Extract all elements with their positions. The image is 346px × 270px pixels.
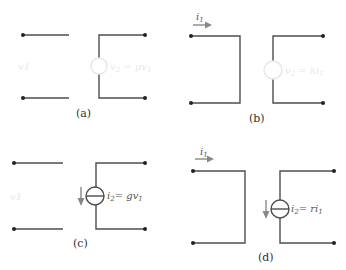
terminal-dot	[332, 241, 336, 245]
arrowhead-icon	[263, 211, 270, 219]
terminal-dot	[189, 34, 193, 38]
arrowhead-icon	[78, 198, 85, 206]
terminal-dot	[12, 161, 16, 165]
terminal-dot	[332, 169, 336, 173]
panel-c: v1 i2= gv1 (c)	[10, 161, 147, 250]
panel-d: i1 i2= ri1 (d)	[191, 146, 336, 264]
source-equation-label: v2 = μv1	[110, 61, 152, 74]
panel-a: v1 v2 = μv1 (a)	[18, 33, 152, 120]
terminal-dot	[21, 33, 25, 37]
input-voltage-label: v1	[18, 61, 30, 72]
output-top-wire	[99, 35, 145, 58]
caption-a: (a)	[76, 107, 91, 120]
input-voltage-label: v1	[10, 191, 22, 202]
output-bottom-wire	[280, 218, 334, 243]
arrowhead-icon	[205, 22, 212, 29]
input-current-label: i1	[196, 11, 204, 24]
arrowhead-icon	[207, 156, 214, 163]
terminal-dot	[21, 96, 25, 100]
output-top-wire	[280, 171, 334, 200]
source-equation-label: i2= ri1	[291, 203, 323, 216]
terminal-dot	[12, 227, 16, 231]
input-current-label: i1	[200, 146, 208, 159]
output-bottom-wire	[99, 74, 145, 98]
input-short-wire	[191, 36, 240, 103]
terminal-dot	[143, 227, 147, 231]
output-bottom-wire	[273, 79, 323, 103]
voltage-source-icon	[264, 61, 282, 79]
terminal-dot	[189, 101, 193, 105]
panel-b: i1 v2 = ki1 (b)	[189, 11, 325, 125]
input-short-wire	[193, 171, 245, 243]
terminal-dot	[143, 161, 147, 165]
terminal-dot	[321, 101, 325, 105]
terminal-dot	[143, 96, 147, 100]
voltage-source-icon	[91, 58, 107, 74]
output-top-wire	[273, 36, 323, 61]
source-equation-label: v2 = ki1	[285, 65, 324, 78]
terminal-dot	[143, 33, 147, 37]
output-bottom-wire	[96, 205, 145, 229]
terminal-dot	[191, 169, 195, 173]
output-top-wire	[96, 163, 145, 187]
source-equation-label: i2= gv1	[107, 190, 143, 203]
caption-b: (b)	[249, 112, 265, 125]
dependent-sources-diagram: v1 v2 = μv1 (a) i1 v2 = ki1 (b) v1	[0, 0, 346, 270]
caption-c: (c)	[73, 237, 88, 250]
caption-d: (d)	[258, 251, 274, 264]
terminal-dot	[321, 34, 325, 38]
terminal-dot	[191, 241, 195, 245]
